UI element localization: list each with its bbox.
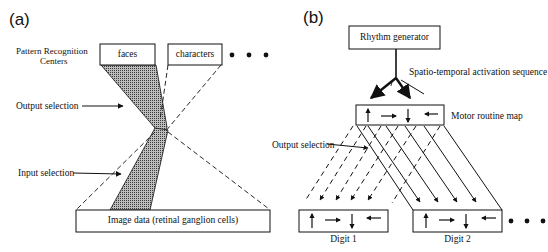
activation-sequence-label: Spatio-temporal activation sequence	[409, 67, 547, 77]
input-selection-label: Input selection	[18, 168, 74, 178]
image-data-label: Image data (retinal ganglion cells)	[76, 215, 270, 225]
pattern-recognition-label-line1: Pattern Recognition	[16, 46, 88, 56]
panel-b-label: (b)	[303, 8, 324, 28]
pattern-recognition-label-line2: Centers	[40, 56, 68, 66]
ellipsis-dot	[525, 219, 530, 224]
rhythm-generator-label: Rhythm generator	[349, 32, 440, 42]
panel-b-graphics	[299, 26, 545, 232]
digit-2-label: Digit 2	[413, 234, 502, 244]
ellipsis-dot	[230, 53, 235, 58]
motor-routine-map-box	[356, 105, 444, 125]
projection-lines-digit1	[305, 126, 440, 203]
ellipsis-dot	[541, 219, 546, 224]
ellipsis-dot	[247, 53, 252, 58]
output-selection-label-b: Output selection	[272, 140, 335, 150]
characters-label: characters	[168, 49, 222, 59]
panel-a-label: (a)	[9, 10, 30, 30]
input-selection-shaded-region	[110, 128, 168, 210]
panel-a-graphics	[73, 44, 270, 232]
ellipsis-dot	[509, 219, 514, 224]
digit-1-label: Digit 1	[299, 234, 388, 244]
projection-lines-digit2	[357, 126, 502, 210]
motor-routine-map-label: Motor routine map	[451, 111, 523, 121]
faces-label: faces	[100, 49, 155, 59]
dashed-line	[168, 132, 269, 209]
ellipsis-dot	[264, 53, 269, 58]
output-selection-label: Output selection	[16, 101, 79, 111]
dashed-line	[165, 65, 221, 132]
activation-arrow	[371, 78, 396, 98]
